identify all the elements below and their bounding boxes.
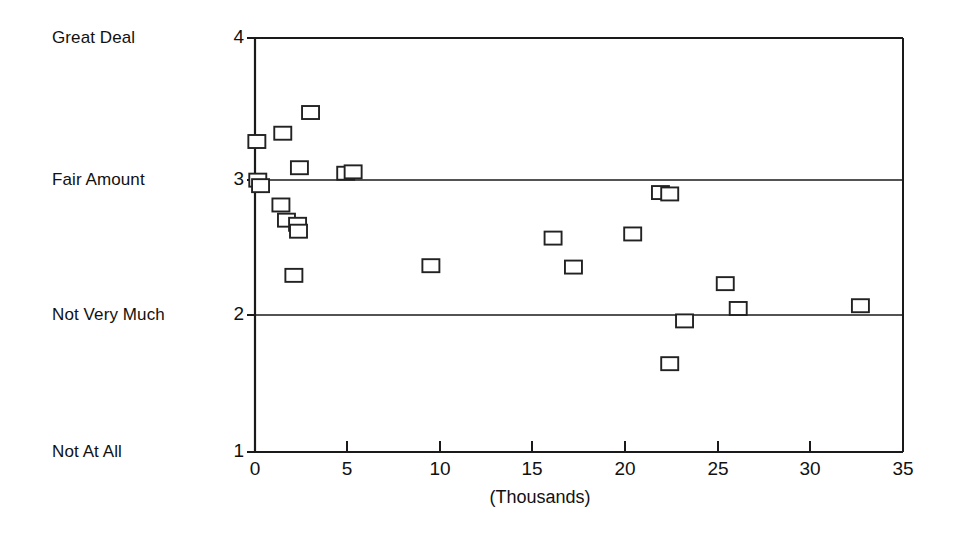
y-axis-ticks <box>247 38 255 452</box>
data-point-marker <box>730 302 747 315</box>
data-point-marker <box>248 135 265 148</box>
data-point-marker <box>274 127 291 140</box>
data-point-marker <box>291 161 308 174</box>
data-point-marker <box>624 227 641 240</box>
data-point-marker <box>545 232 562 245</box>
data-point-marker <box>345 165 362 178</box>
data-point-marker <box>852 299 869 312</box>
scatter-chart: Great Deal Fair Amount Not Very Much Not… <box>0 0 958 539</box>
gridlines <box>255 180 903 315</box>
data-point-marker <box>717 277 734 290</box>
data-point-marker <box>252 179 269 192</box>
data-point-marker <box>290 225 307 238</box>
data-point-marker <box>285 269 302 282</box>
data-point-marker <box>661 187 678 200</box>
data-point-marker <box>565 261 582 274</box>
data-point-marker <box>302 106 319 119</box>
x-axis-ticks <box>255 441 903 452</box>
plot-area <box>0 0 958 539</box>
axis-frame <box>255 38 903 452</box>
data-markers <box>248 106 869 370</box>
data-point-marker <box>661 357 678 370</box>
data-point-marker <box>676 314 693 327</box>
data-point-marker <box>272 198 289 211</box>
data-point-marker <box>422 259 439 272</box>
